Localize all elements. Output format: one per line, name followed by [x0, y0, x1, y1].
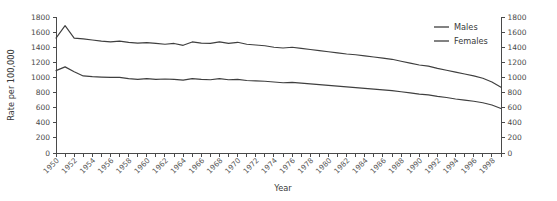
right-y-axis: 020040060080010001200140016001800 — [501, 13, 527, 158]
left-axis-tick-label: 1600 — [31, 28, 50, 37]
x-axis-tick-label: 1952 — [60, 156, 80, 176]
chart-legend: MalesFemales — [434, 22, 488, 46]
x-axis-tick-label: 1986 — [368, 156, 388, 176]
x-axis-tick-label: 1958 — [114, 156, 134, 176]
left-axis-tick-label: 1800 — [31, 13, 50, 22]
right-axis-tick-label: 1600 — [508, 28, 527, 37]
x-axis: 1950195219541956195819601962196419661968… — [41, 153, 501, 176]
right-axis-tick-label: 800 — [508, 88, 523, 97]
x-axis-tick-label: 1984 — [350, 156, 370, 176]
legend-label-females: Females — [454, 36, 488, 46]
x-axis-tick-label: 1960 — [132, 156, 152, 176]
right-axis-tick-label: 0 — [508, 149, 513, 158]
x-axis-tick-label: 1980 — [314, 156, 334, 176]
x-axis-tick-label: 1992 — [423, 156, 443, 176]
x-axis-tick-label: 1988 — [387, 156, 407, 176]
x-axis-tick-label: 1954 — [78, 156, 98, 176]
left-axis-tick-label: 0 — [45, 149, 50, 158]
x-axis-tick-label: 1982 — [332, 156, 352, 176]
left-axis-tick-label: 400 — [36, 118, 51, 127]
x-axis-tick-label: 1976 — [278, 156, 298, 176]
x-axis-tick-label: 1956 — [96, 156, 116, 176]
left-axis-tick-label: 1000 — [31, 73, 50, 82]
x-axis-tick-label: 1964 — [169, 156, 189, 176]
line-chart: 020040060080010001200140016001800 020040… — [0, 0, 557, 201]
right-axis-tick-label: 1000 — [508, 73, 527, 82]
legend-label-males: Males — [454, 22, 478, 32]
left-axis-tick-label: 800 — [36, 88, 51, 97]
x-axis-tick-label: 1974 — [259, 156, 279, 176]
x-axis-title: Year — [273, 183, 292, 193]
left-axis-tick-label: 200 — [36, 133, 51, 142]
series-line-females — [56, 67, 501, 109]
left-axis-tick-label: 1200 — [31, 58, 50, 67]
x-axis-tick-label: 1970 — [223, 156, 243, 176]
x-axis-tick-label: 1994 — [441, 156, 461, 176]
left-axis-tick-label: 600 — [36, 103, 51, 112]
right-axis-tick-label: 200 — [508, 133, 523, 142]
x-axis-tick-label: 1966 — [187, 156, 207, 176]
x-axis-tick-label: 1996 — [459, 156, 479, 176]
x-axis-tick-label: 1998 — [477, 156, 497, 176]
x-axis-tick-label: 1968 — [205, 156, 225, 176]
chart-container: 020040060080010001200140016001800 020040… — [0, 0, 557, 201]
y-axis-title: Rate per 100,000 — [6, 49, 16, 120]
right-axis-tick-label: 1200 — [508, 58, 527, 67]
plot-area: 020040060080010001200140016001800 020040… — [6, 13, 527, 193]
x-axis-tick-label: 1978 — [296, 156, 316, 176]
right-axis-tick-label: 1800 — [508, 13, 527, 22]
x-axis-tick-label: 1990 — [405, 156, 425, 176]
right-axis-tick-label: 600 — [508, 103, 523, 112]
x-axis-tick-label: 1950 — [41, 156, 61, 176]
left-axis-tick-label: 1400 — [31, 43, 50, 52]
left-y-axis: 020040060080010001200140016001800 — [31, 13, 56, 158]
x-axis-tick-label: 1972 — [241, 156, 261, 176]
data-series-group — [56, 26, 501, 109]
x-axis-tick-label: 1962 — [150, 156, 170, 176]
right-axis-tick-label: 400 — [508, 118, 523, 127]
right-axis-tick-label: 1400 — [508, 43, 527, 52]
